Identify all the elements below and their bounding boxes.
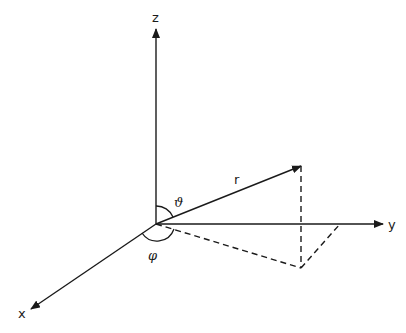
y-component-dashed — [301, 224, 340, 268]
x-axis-label: x — [18, 306, 26, 321]
theta-label: ϑ — [174, 195, 183, 210]
y-axis-label: y — [388, 217, 396, 232]
spherical-coordinates-diagram: z y x r ϑ φ — [0, 0, 406, 333]
z-axis-label: z — [152, 10, 159, 25]
x-axis — [31, 224, 156, 309]
phi-label: φ — [148, 248, 158, 263]
xy-projection-dashed — [156, 224, 301, 268]
theta-arc — [156, 206, 173, 217]
radius-label: r — [234, 172, 240, 187]
